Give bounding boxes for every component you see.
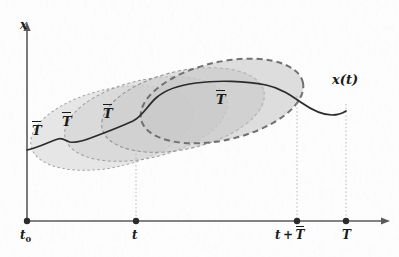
- window-label-4: T: [216, 92, 226, 107]
- tick-dot-t-plus-Tbar: [294, 218, 300, 224]
- window-label-1-text: T: [32, 123, 42, 138]
- tick-label-t-plus: t +: [275, 228, 295, 242]
- overbar-4: [216, 90, 225, 91]
- tick-dot-t: [133, 218, 139, 224]
- curve-label: x(t): [332, 72, 358, 87]
- window-label-4-text: T: [216, 92, 226, 107]
- tick-label-t-main: t: [132, 228, 138, 242]
- window-label-2: T: [62, 114, 72, 129]
- window-label-3: T: [103, 106, 113, 121]
- tick-label-T-main: T: [342, 228, 351, 242]
- window-label-3-text: T: [103, 106, 113, 121]
- trajectory-window-diagram: [0, 0, 399, 257]
- overbar-3: [103, 104, 112, 105]
- tick-label-Tbar-text: T: [295, 228, 304, 242]
- tick-dot-T: [343, 218, 349, 224]
- tick-label-t: t: [132, 228, 138, 242]
- window-label-2-text: T: [62, 114, 72, 129]
- overbar-1: [32, 121, 41, 122]
- overbar-tick: [296, 226, 304, 227]
- tick-label-t-plus-Tbar: t + T: [275, 228, 304, 242]
- tick-dot-t0: [24, 218, 30, 224]
- tick-label-t0-sub: 0: [26, 234, 32, 244]
- tick-label-t0: t0: [20, 228, 31, 244]
- window-label-1: T: [32, 123, 42, 138]
- y-axis-label: x: [20, 18, 27, 32]
- tick-label-T: T: [342, 228, 351, 242]
- overbar-2: [62, 112, 71, 113]
